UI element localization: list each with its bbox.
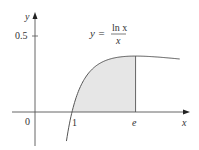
x-axis-arrow-icon bbox=[183, 110, 190, 115]
x-tick-label-e: e bbox=[132, 117, 137, 128]
x-axis-label: x bbox=[181, 117, 187, 128]
y-axis-arrow-icon bbox=[33, 12, 38, 19]
graph: y 0.5 0 1 e x y = ln x x bbox=[0, 0, 199, 150]
x-tick-label-1: 1 bbox=[72, 117, 77, 128]
y-axis-label: y bbox=[24, 11, 30, 22]
function-label-lhs: y = bbox=[89, 27, 105, 39]
origin-label: 0 bbox=[25, 116, 30, 127]
y-tick-label-0.5: 0.5 bbox=[15, 30, 28, 41]
function-label-numerator: ln x bbox=[112, 22, 127, 33]
function-label-denominator: x bbox=[115, 35, 121, 46]
